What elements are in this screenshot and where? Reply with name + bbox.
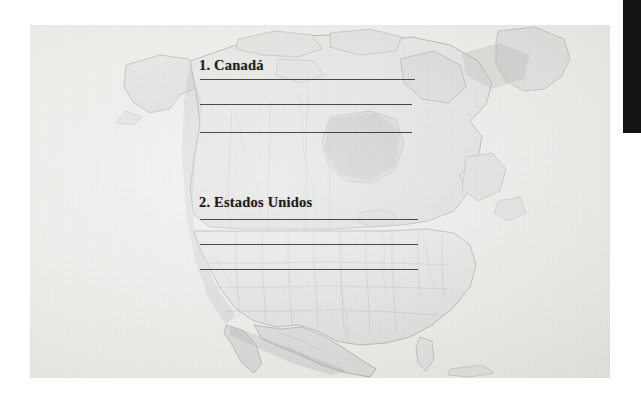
exercise-1-answer-line-1[interactable] bbox=[200, 79, 415, 80]
scanner-edge-bar bbox=[623, 0, 641, 133]
worksheet-page: 1. Canadá 2. Estados Unidos bbox=[0, 0, 641, 397]
exercise-2-answer-line-3[interactable] bbox=[200, 269, 418, 270]
exercise-2-label: 2. Estados Unidos bbox=[199, 194, 312, 211]
exercise-1-label: 1. Canadá bbox=[199, 57, 264, 74]
exercise-overlay: 1. Canadá 2. Estados Unidos bbox=[30, 25, 610, 378]
exercise-1-answer-line-2[interactable] bbox=[200, 104, 412, 105]
exercise-2-answer-line-2[interactable] bbox=[200, 244, 418, 245]
exercise-1-answer-line-3[interactable] bbox=[200, 132, 412, 133]
exercise-2-answer-line-1[interactable] bbox=[200, 219, 418, 220]
scanned-page-sheet: 1. Canadá 2. Estados Unidos bbox=[30, 25, 610, 378]
